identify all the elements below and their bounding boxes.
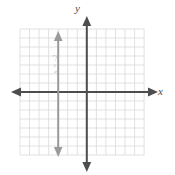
y-axis-top-arrowhead xyxy=(82,16,91,26)
x-axis-label: x xyxy=(158,86,163,97)
y-axis-label: y xyxy=(75,3,80,14)
plot-line-top-arrowhead xyxy=(54,31,63,41)
y-axis-bottom-arrowhead xyxy=(82,162,91,172)
graph-canvas xyxy=(0,0,175,175)
x-axis-left-arrowhead xyxy=(11,88,21,97)
x-axis-right-arrowhead xyxy=(148,88,158,97)
y-axis xyxy=(82,16,91,172)
line-equation-label: x = -2 xyxy=(51,47,59,81)
coordinate-plane-figure: y x x = -2 xyxy=(0,0,175,175)
plot-line-bottom-arrowhead xyxy=(54,147,63,157)
x-axis xyxy=(11,88,158,97)
